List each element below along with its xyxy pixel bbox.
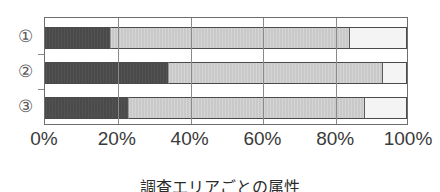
x-tick-label-60: 60% [243,128,281,150]
gridline-80 [336,18,337,124]
x-tick-label-40: 40% [171,128,209,150]
row-label-1: ① [12,26,38,48]
bar-3-segment-3 [364,97,407,119]
table-row [45,62,407,84]
bar-3-segment-1 [45,97,128,119]
x-tick-label-80: 80% [316,128,354,150]
bar-1-segment-3 [349,27,407,49]
bar-2-segment-2 [168,62,382,84]
bar-3-segment-2 [128,97,363,119]
x-tick-label-100: 100% [384,128,433,150]
row-label-2: ② [12,61,38,83]
row-label-3: ③ [12,96,38,118]
stacked-bar-chart-figure: ① ② ③ 0%20%40%60%80%100% 調査エリアごとの属性 [0,0,440,192]
gridline-40 [191,18,192,124]
table-row [45,97,407,119]
bar-2-segment-3 [382,62,407,84]
x-tick-label-20: 20% [98,128,136,150]
gridline-20 [118,18,119,124]
bar-2-segment-1 [45,62,168,84]
figure-caption: 調査エリアごとの属性 [0,178,440,192]
x-tick-label-0: 0% [30,128,57,150]
table-row [45,27,407,49]
bar-1-segment-1 [45,27,110,49]
bar-1-segment-2 [110,27,349,49]
plot-area [44,17,408,125]
gridline-60 [263,18,264,124]
